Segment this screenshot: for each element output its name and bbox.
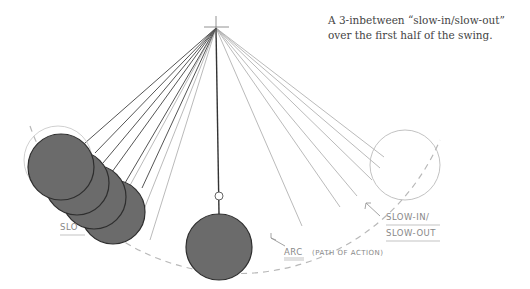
ghost-circle-right bbox=[370, 130, 440, 200]
caption-line-2: over the first half of the swing. bbox=[328, 28, 528, 43]
arc-note: (PATH OF ACTION) bbox=[312, 249, 384, 257]
slow-label-left: SLO bbox=[60, 222, 78, 232]
bob-1 bbox=[28, 134, 94, 200]
arc-label: ARC (PATH OF ACTION) bbox=[284, 247, 384, 257]
pendulum-diagram bbox=[0, 0, 530, 289]
slow-in-label: SLOW-IN/ bbox=[386, 212, 429, 222]
arrow-icon bbox=[271, 203, 380, 246]
slow-out-label: SLOW-OUT bbox=[386, 228, 436, 238]
caption: A 3-inbetween “slow-in/slow-out” over th… bbox=[328, 13, 528, 43]
caption-line-1: A 3-inbetween “slow-in/slow-out” bbox=[328, 13, 528, 28]
arc-label-text: ARC bbox=[284, 247, 303, 257]
inbetween-lines bbox=[110, 28, 384, 240]
